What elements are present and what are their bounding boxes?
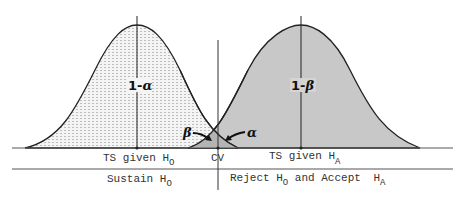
alt-ts-label: TS given HA	[269, 150, 341, 167]
reject-region-label: Reject HO and Accept HA	[230, 172, 386, 188]
null-ts-label: TS given HO	[103, 152, 174, 168]
beta-label: β	[182, 125, 192, 140]
alt-area-label: 1-β	[291, 78, 314, 93]
alpha-label: α	[247, 125, 257, 140]
hypothesis-test-diagram: 1-α 1-β β α TS given HO CV TS given HA S…	[0, 0, 466, 198]
null-area-label: 1-α	[128, 78, 152, 93]
critical-value-label: CV	[211, 152, 225, 164]
sustain-region-label: Sustain HO	[107, 173, 172, 189]
